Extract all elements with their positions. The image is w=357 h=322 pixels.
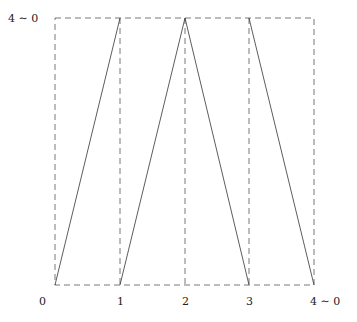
segment-1-2 — [120, 18, 185, 285]
segment-0-1 — [55, 18, 120, 285]
x-label-4: 4 ∼ 0 — [310, 295, 340, 308]
zigzag-diagram: 4 ∼ 0 0 1 2 3 4 ∼ 0 — [0, 0, 357, 322]
y-axis-label: 4 ∼ 0 — [8, 12, 38, 25]
segment-2-3 — [185, 18, 249, 285]
dashed-frame — [55, 18, 314, 285]
x-label-1: 1 — [117, 295, 124, 308]
outer-dashed-box — [55, 18, 314, 285]
x-label-2: 2 — [182, 295, 189, 308]
x-label-3: 3 — [246, 295, 253, 308]
solid-segments — [55, 18, 314, 285]
segment-3-4 — [249, 18, 314, 285]
x-label-0: 0 — [39, 295, 46, 308]
